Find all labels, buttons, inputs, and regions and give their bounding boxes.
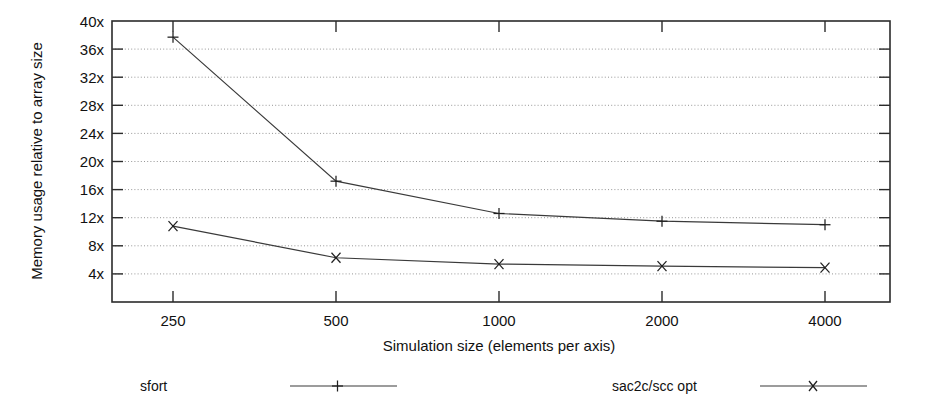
y-tick-labels: 4x 8x 12x 16x 20x 24x 28x 32x 36x 40x (80, 13, 105, 282)
chart-legend: sfort sac2c/scc opt (140, 378, 867, 394)
y-gridlines (112, 49, 890, 274)
y-axis-ticks (112, 49, 890, 274)
series-sac2c-line (173, 226, 825, 267)
x-tick-label-500: 500 (323, 312, 348, 329)
memory-usage-line-chart: 4x 8x 12x 16x 20x 24x 28x 32x 36x 40x (0, 0, 938, 419)
series-sac2c-markers (169, 221, 830, 272)
y-axis-title: Memory usage relative to array size (28, 42, 45, 280)
series-sac2c-scc-opt (169, 221, 830, 272)
x-tick-label-1000: 1000 (482, 312, 515, 329)
legend-sample-sac2c-scc-opt (760, 381, 867, 391)
series-sfort (168, 32, 831, 231)
y-tick-label-16x: 16x (80, 181, 105, 198)
y-tick-label-4x: 4x (88, 265, 104, 282)
x-tick-labels: 250 500 1000 2000 4000 (160, 312, 841, 329)
x-axis-title: Simulation size (elements per axis) (383, 337, 616, 354)
series-sfort-line (173, 37, 825, 225)
y-tick-label-28x: 28x (80, 97, 105, 114)
y-tick-label-20x: 20x (80, 153, 105, 170)
chart-figure: 4x 8x 12x 16x 20x 24x 28x 32x 36x 40x (0, 0, 938, 419)
legend-sample-sfort (290, 381, 397, 392)
x-tick-label-250: 250 (160, 312, 185, 329)
legend-label-sfort: sfort (140, 378, 167, 394)
legend-label-sac2c-scc-opt: sac2c/scc opt (612, 378, 697, 394)
series-sfort-markers (168, 32, 831, 231)
y-tick-label-24x: 24x (80, 125, 105, 142)
plot-frame (112, 21, 890, 302)
y-tick-label-8x: 8x (88, 237, 104, 254)
y-tick-label-40x: 40x (80, 13, 105, 30)
y-tick-label-36x: 36x (80, 41, 105, 58)
y-tick-label-32x: 32x (80, 69, 105, 86)
x-tick-label-4000: 4000 (808, 312, 841, 329)
x-tick-label-2000: 2000 (645, 312, 678, 329)
y-tick-label-12x: 12x (80, 209, 105, 226)
